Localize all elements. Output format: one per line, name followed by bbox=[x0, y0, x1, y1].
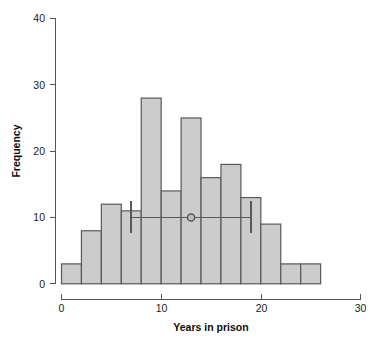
histogram-bar bbox=[261, 224, 281, 284]
x-tick-label-20: 20 bbox=[256, 302, 268, 314]
x-tick-label-10: 10 bbox=[156, 302, 168, 314]
histogram-bars bbox=[62, 98, 321, 284]
histogram-plot-area: 40 30 20 10 0 Frequency 0 10 20 30 Years… bbox=[0, 0, 381, 344]
histogram-bar bbox=[81, 231, 101, 284]
histogram-bar bbox=[141, 98, 161, 284]
histogram-bar bbox=[161, 191, 181, 284]
y-tick-label-30: 30 bbox=[33, 79, 45, 91]
histogram-bar bbox=[281, 264, 301, 284]
histogram-figure: 40 30 20 10 0 Frequency 0 10 20 30 Years… bbox=[0, 0, 381, 344]
histogram-bar bbox=[221, 164, 241, 283]
x-axis-title: Years in prison bbox=[173, 321, 248, 333]
interval-center-marker bbox=[187, 214, 194, 221]
histogram-bar bbox=[62, 264, 82, 284]
histogram-bar bbox=[101, 204, 121, 284]
y-tick-label-20: 20 bbox=[33, 145, 45, 157]
y-tick-label-10: 10 bbox=[33, 211, 45, 223]
x-tick-label-0: 0 bbox=[59, 302, 65, 314]
y-axis-title: Frequency bbox=[10, 124, 22, 177]
y-tick-label-40: 40 bbox=[33, 12, 45, 24]
y-tick-label-0: 0 bbox=[39, 278, 45, 290]
histogram-bar bbox=[301, 264, 321, 284]
x-tick-label-30: 30 bbox=[355, 302, 367, 314]
histogram-bar bbox=[201, 178, 221, 284]
histogram-bar bbox=[181, 118, 201, 284]
